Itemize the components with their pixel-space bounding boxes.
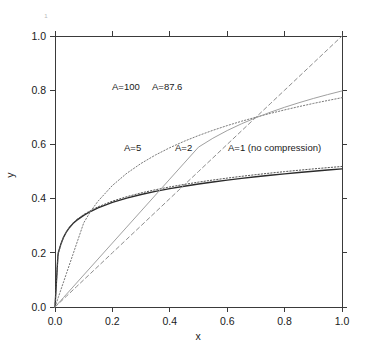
- x-tick-label: 0.2: [105, 315, 120, 327]
- y-tick-label: 0.8: [31, 84, 46, 96]
- x-tick-label: 1.0: [335, 315, 350, 327]
- curve-a-5: [55, 98, 342, 307]
- x-tick-labels: 0.00.20.40.60.81.0: [48, 315, 350, 327]
- y-tick-label: 0.0: [31, 301, 46, 313]
- curve-label: A=1 (no compression): [228, 142, 321, 153]
- curve-label: A=87.6: [152, 81, 182, 92]
- x-tick-label: 0.8: [277, 315, 292, 327]
- chart-page: 0.00.20.40.60.81.0 0.00.20.40.60.81.0 A=…: [0, 0, 365, 352]
- x-tick-label: 0.0: [48, 315, 63, 327]
- stray-tick-artifact: 1: [44, 13, 48, 19]
- y-tick-label: 0.6: [31, 138, 46, 150]
- curve-a-100: [55, 169, 342, 307]
- curve-annotations: A=100A=87.6A=5A=2A=1 (no compression): [112, 81, 321, 153]
- curve-label: A=2: [175, 142, 192, 153]
- y-axis-label: y: [4, 172, 16, 178]
- x-tick-label: 0.4: [162, 315, 177, 327]
- curve-a-87-6: [55, 166, 342, 307]
- y-tick-labels: 0.00.20.40.60.81.0: [31, 30, 46, 313]
- curve-a-2: [55, 91, 342, 307]
- companding-curve-chart: 0.00.20.40.60.81.0 0.00.20.40.60.81.0 A=…: [0, 0, 365, 352]
- curve-a-1-no-compression-: [55, 36, 342, 307]
- curve-label: A=5: [124, 142, 141, 153]
- x-tick-label: 0.6: [220, 315, 235, 327]
- y-tick-label: 0.2: [31, 247, 46, 259]
- x-axis-label: x: [195, 330, 201, 342]
- y-tick-label: 0.4: [31, 192, 46, 204]
- curve-series-group: [55, 36, 342, 307]
- y-tick-label: 1.0: [31, 30, 46, 42]
- curve-label: A=100: [112, 81, 140, 92]
